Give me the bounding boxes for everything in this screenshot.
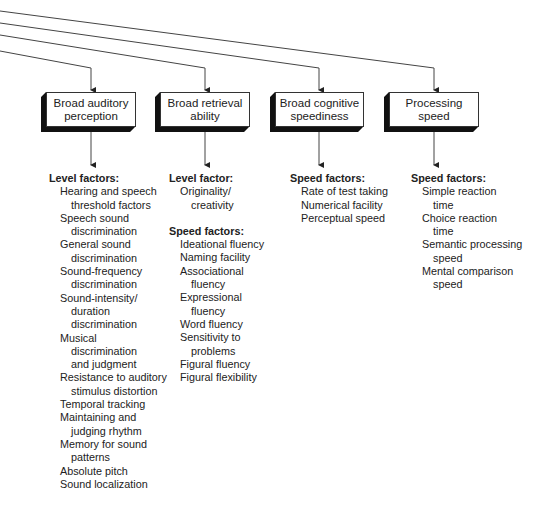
factor-item: Resistance to auditorystimulus distortio…: [49, 371, 167, 398]
factor-item-continuation: discrimination: [60, 225, 167, 238]
factor-item-label: Choice reaction: [422, 212, 522, 225]
factor-group-heading: Speed factors:: [411, 172, 522, 185]
factor-item-label: Speech sound: [60, 212, 167, 225]
factor-item-continuation: creativity: [180, 199, 264, 212]
factor-item-continuation: discrimination: [60, 278, 167, 291]
factor-list-retrieval: Level factor:Originality/creativitySpeed…: [169, 172, 264, 384]
factor-item: Hearing and speechthreshold factors: [49, 185, 167, 212]
factor-item-label: Temporal tracking: [60, 398, 167, 411]
factor-item: Absolute pitch: [49, 465, 167, 478]
factor-item: Numerical facility: [290, 199, 388, 212]
factor-group-heading: Speed factors:: [290, 172, 388, 185]
factor-item: Sound-frequencydiscrimination: [49, 265, 167, 292]
factor-item-label: Figural flexibility: [180, 371, 264, 384]
factor-item-continuation: threshold factors: [60, 199, 167, 212]
factor-item: Figural flexibility: [169, 371, 264, 384]
factor-item-label: Ideational fluency: [180, 238, 264, 251]
factor-item-continuation: problems: [180, 345, 264, 358]
factor-item-label: Sound localization: [60, 478, 167, 491]
factor-item-label: Word fluency: [180, 318, 264, 331]
factor-item: Musicaldiscriminationand judgment: [49, 332, 167, 372]
factor-item: Word fluency: [169, 318, 264, 331]
factor-item-label: Maintaining and: [60, 411, 167, 424]
factor-group-heading: Level factors:: [49, 172, 167, 185]
factor-item-continuation: speed: [422, 252, 522, 265]
factor-list-cognitive: Speed factors:Rate of test takingNumeric…: [290, 172, 388, 225]
factor-group-heading: Speed factors:: [169, 225, 264, 238]
factor-item-label: Semantic processing: [422, 238, 522, 251]
factor-item-label: Originality/: [180, 185, 264, 198]
factor-item: Naming facility: [169, 251, 264, 264]
factor-item-label: Sensitivity to: [180, 331, 264, 344]
factor-item-label: Simple reaction: [422, 185, 522, 198]
factor-item: Memory for soundpatterns: [49, 438, 167, 465]
factor-item-continuation: speed: [422, 278, 522, 291]
factor-item: Expressionalfluency: [169, 291, 264, 318]
factor-item: Perceptual speed: [290, 212, 388, 225]
factor-item: Simple reactiontime: [411, 185, 522, 212]
factor-item-label: Numerical facility: [301, 199, 388, 212]
factor-item: Mental comparisonspeed: [411, 265, 522, 292]
node-broad-auditory-perception: Broad auditory perception: [46, 92, 136, 127]
factor-item-label: Expressional: [180, 291, 264, 304]
factor-item-continuation: stimulus distortion: [60, 385, 167, 398]
factor-item-continuation: time: [422, 199, 522, 212]
factor-item: Ideational fluency: [169, 238, 264, 251]
factor-item-label: Sound-intensity/: [60, 292, 167, 305]
factor-item: Originality/creativity: [169, 185, 264, 212]
factor-item-continuation: and judgment: [60, 358, 167, 371]
factor-item-label: General sound: [60, 238, 167, 251]
group-spacer: [169, 212, 264, 225]
factor-item-label: Associational: [180, 265, 264, 278]
factor-item: Temporal tracking: [49, 398, 167, 411]
factor-item: Speech sounddiscrimination: [49, 212, 167, 239]
factor-item: Maintaining andjudging rhythm: [49, 411, 167, 438]
factor-item-continuation: discrimination: [60, 252, 167, 265]
factor-item-continuation: discrimination: [60, 318, 167, 331]
factor-item: Sound-intensity/durationdiscrimination: [49, 292, 167, 332]
factor-item: Semantic processingspeed: [411, 238, 522, 265]
factor-item-label: Figural fluency: [180, 358, 264, 371]
factor-item-continuation: discrimination: [60, 345, 167, 358]
factor-item: Rate of test taking: [290, 185, 388, 198]
factor-item-continuation: fluency: [180, 305, 264, 318]
factor-item-continuation: judging rhythm: [60, 425, 167, 438]
factor-item: Sensitivity toproblems: [169, 331, 264, 358]
factor-item-label: Musical: [60, 332, 167, 345]
node-broad-cognitive-speediness: Broad cognitive speediness: [275, 92, 364, 127]
factor-item-continuation: time: [422, 225, 522, 238]
factor-item-continuation: duration: [60, 305, 167, 318]
factor-item-continuation: patterns: [60, 451, 167, 464]
factor-item-label: Perceptual speed: [301, 212, 388, 225]
factor-item-label: Memory for sound: [60, 438, 167, 451]
node-broad-retrieval-ability: Broad retrieval ability: [160, 92, 250, 127]
node-processing-speed: Processing speed: [389, 92, 479, 127]
factor-item-label: Mental comparison: [422, 265, 522, 278]
factor-item-label: Naming facility: [180, 251, 264, 264]
factor-item-continuation: fluency: [180, 278, 264, 291]
factor-item-label: Absolute pitch: [60, 465, 167, 478]
factor-item: Associationalfluency: [169, 265, 264, 292]
factor-item-label: Sound-frequency: [60, 265, 167, 278]
factor-list-auditory: Level factors:Hearing and speechthreshol…: [49, 172, 167, 491]
factor-list-processing: Speed factors:Simple reactiontimeChoice …: [411, 172, 522, 292]
factor-item: Choice reactiontime: [411, 212, 522, 239]
factor-group-heading: Level factor:: [169, 172, 264, 185]
factor-item-label: Resistance to auditory: [60, 371, 167, 384]
factor-item: Figural fluency: [169, 358, 264, 371]
factor-item: General sounddiscrimination: [49, 238, 167, 265]
factor-item-label: Hearing and speech: [60, 185, 167, 198]
factor-item: Sound localization: [49, 478, 167, 491]
factor-item-label: Rate of test taking: [301, 185, 388, 198]
